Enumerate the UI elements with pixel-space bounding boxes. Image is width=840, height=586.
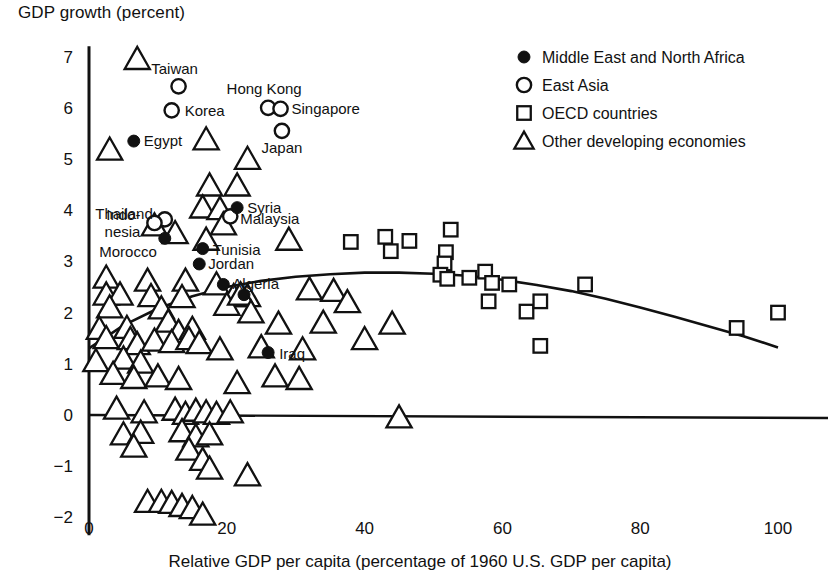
marker-oecd (344, 235, 358, 249)
marker-east-asia (275, 124, 289, 138)
marker-other (297, 277, 322, 299)
marker-other (104, 397, 129, 419)
point-label-line: Egypt (144, 132, 183, 149)
x-tick-label: 100 (764, 519, 792, 538)
point-label-line: Taiwan (151, 60, 198, 77)
marker-oecd (384, 244, 398, 258)
x-tick-label: 60 (493, 519, 512, 538)
marker-other (166, 367, 191, 389)
y-tick-label: 1 (64, 355, 73, 374)
legend-item-mena[interactable]: Middle East and North Africa (518, 49, 745, 66)
point-label: Taiwan (151, 60, 198, 77)
marker-mena (159, 232, 171, 244)
marker-other (197, 173, 222, 195)
marker-oecd (403, 234, 417, 248)
x-tick-label: 80 (631, 519, 650, 538)
marker-other (235, 147, 260, 169)
point-label-line: Malaysia (240, 210, 300, 227)
marker-oecd (441, 272, 455, 286)
marker-east-asia (273, 102, 287, 116)
y-tick-label: 4 (64, 201, 73, 220)
x-tick-label: 0 (84, 519, 93, 538)
marker-other (194, 127, 219, 149)
legend-label: Middle East and North Africa (542, 49, 745, 66)
point-label: Korea (185, 102, 226, 119)
y-tick-label: 3 (64, 252, 73, 271)
marker-oecd (534, 295, 548, 309)
marker-mena (262, 347, 274, 359)
marker-oecd (482, 295, 496, 309)
marker-other (380, 312, 405, 334)
legend-label: OECD countries (542, 105, 658, 122)
marker-mena (128, 135, 140, 147)
marker-oecd (463, 271, 477, 285)
marker-other (207, 337, 232, 359)
point-label-line: Indo- (106, 206, 140, 223)
y-tick-label: 5 (64, 150, 73, 169)
legend-label: East Asia (542, 77, 609, 94)
chart-figure: GDP growth (percent) −2−1012345670204060… (0, 0, 840, 586)
point-label: Iraq (279, 345, 305, 362)
marker-oecd (444, 223, 458, 237)
y-tick-label: 6 (64, 99, 73, 118)
x-tick-label: 20 (217, 519, 236, 538)
marker-other (235, 463, 260, 485)
legend-label: Other developing economies (542, 133, 746, 150)
point-label: Morocco (99, 243, 157, 260)
x-axis-title: Relative GDP per capita (percentage of 1… (0, 552, 840, 572)
y-tick-label: 7 (64, 48, 73, 67)
point-label: Indo-nesia (105, 206, 142, 240)
point-label: Japan (261, 139, 302, 156)
marker-other (225, 371, 250, 393)
point-label: Singapore (292, 100, 360, 117)
marker-other (276, 228, 301, 250)
marker-oecd (730, 321, 744, 335)
legend-item-oecd[interactable]: OECD countries (517, 105, 657, 122)
point-label: Egypt (144, 132, 183, 149)
marker-oecd (379, 230, 393, 244)
legend-item-other[interactable]: Other developing economies (514, 132, 745, 150)
y-tick-label: 0 (64, 406, 73, 425)
marker-other (352, 327, 377, 349)
point-label-line: Japan (261, 139, 302, 156)
y-tick-labels: −2−101234567 (54, 48, 73, 528)
point-label-line: Jordan (208, 255, 254, 272)
marker-east-asia (165, 103, 179, 117)
marker-other (97, 138, 122, 160)
point-label-line: Algeria (232, 275, 279, 292)
scatter-plot-canvas: −2−101234567020406080100EgyptMoroccoTuni… (0, 0, 840, 586)
marker-mena (217, 278, 229, 290)
point-label-line: Singapore (292, 100, 360, 117)
point-label-line: Hong Kong (227, 80, 302, 97)
point-label: Hong Kong (227, 80, 302, 97)
point-label-line: Morocco (99, 243, 157, 260)
marker-other (287, 367, 312, 389)
marker-oecd (485, 276, 499, 290)
y-tick-label: 2 (64, 304, 73, 323)
marker-oecd (771, 306, 785, 320)
marker-oecd (520, 305, 534, 319)
marker-mena (518, 51, 530, 63)
marker-other (262, 364, 287, 386)
marker-oecd (517, 106, 531, 120)
marker-other (125, 47, 150, 69)
point-label: Algeria (232, 275, 279, 292)
y-tick-label: −2 (54, 508, 73, 527)
marker-other (132, 400, 157, 422)
legend-item-east_asia[interactable]: East Asia (517, 77, 609, 94)
marker-other (135, 269, 160, 291)
legend: Middle East and North AfricaEast AsiaOEC… (514, 49, 745, 150)
point-label-line: nesia (105, 223, 142, 240)
point-label-line: Korea (185, 102, 226, 119)
marker-other (311, 311, 336, 333)
marker-mena (197, 243, 209, 255)
marker-east-asia (171, 79, 185, 93)
marker-oecd (503, 278, 517, 292)
marker-other (83, 349, 108, 371)
marker-other (266, 312, 291, 334)
marker-east-asia (517, 78, 531, 92)
y-tick-label: −1 (54, 457, 73, 476)
x-tick-label: 40 (355, 519, 374, 538)
point-label: Malaysia (240, 210, 300, 227)
marker-other (225, 173, 250, 195)
